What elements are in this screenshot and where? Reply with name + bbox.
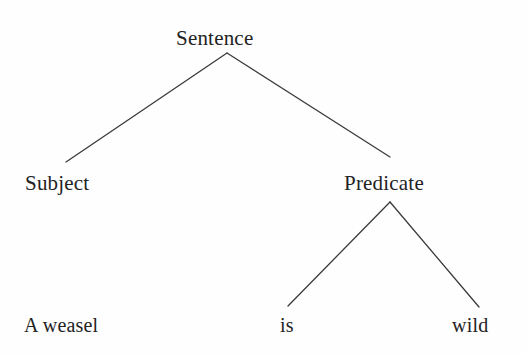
leaf-wild: wild [452,315,488,335]
edge-predicate-to-is [288,202,390,306]
node-predicate: Predicate [344,173,424,194]
leaf-a-weasel: A weasel [24,315,98,335]
edge-sentence-to-subject [66,53,227,162]
node-sentence: Sentence [176,28,253,49]
node-subject: Subject [25,173,89,194]
edge-predicate-to-wild [390,202,479,307]
leaf-is: is [280,315,294,335]
syntax-tree-diagram: Sentence Subject Predicate A weasel is w… [0,0,527,354]
edge-sentence-to-predicate [227,53,390,157]
